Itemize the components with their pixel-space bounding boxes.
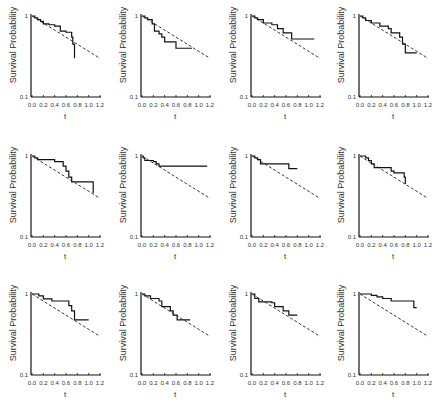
svg-text:1.2: 1.2 <box>316 102 325 108</box>
svg-text:0.1: 0.1 <box>240 372 249 378</box>
svg-text:1.2: 1.2 <box>424 380 433 386</box>
y-axis-label: Survival Probability <box>118 0 128 90</box>
svg-text:0.0: 0.0 <box>138 102 147 108</box>
svg-text:0.6: 0.6 <box>62 102 71 108</box>
svg-text:1.0: 1.0 <box>194 102 203 108</box>
survival-chart-3: 0.00.20.40.60.81.01.210.1Survival Probab… <box>220 0 330 136</box>
svg-text:0.1: 0.1 <box>130 372 139 378</box>
x-axis-label: t <box>284 252 286 261</box>
x-axis-label: t <box>284 112 286 121</box>
svg-text:1.2: 1.2 <box>206 242 215 248</box>
y-axis-label: Survival Probability <box>228 0 238 90</box>
svg-text:0.1: 0.1 <box>20 372 29 378</box>
svg-text:1.2: 1.2 <box>96 242 105 248</box>
svg-text:0.6: 0.6 <box>172 102 181 108</box>
y-axis-label: Survival Probability <box>336 0 346 90</box>
survival-chart-1: 0.00.20.40.60.81.01.210.1Survival Probab… <box>0 0 110 136</box>
svg-text:0.4: 0.4 <box>160 380 169 386</box>
svg-text:0.6: 0.6 <box>282 242 291 248</box>
svg-text:0.8: 0.8 <box>293 242 302 248</box>
svg-text:0.4: 0.4 <box>50 242 59 248</box>
y-axis-label: Survival Probability <box>336 140 346 230</box>
svg-text:0.0: 0.0 <box>356 242 365 248</box>
svg-text:0.1: 0.1 <box>348 94 357 100</box>
svg-text:0.2: 0.2 <box>367 242 376 248</box>
svg-text:1.2: 1.2 <box>316 242 325 248</box>
x-axis-label: t <box>64 112 66 121</box>
svg-text:0.0: 0.0 <box>248 380 257 386</box>
svg-text:0.2: 0.2 <box>367 380 376 386</box>
svg-text:1.2: 1.2 <box>206 102 215 108</box>
y-axis-label: Survival Probability <box>118 278 128 368</box>
survival-chart-10: 0.00.20.40.60.81.01.210.1Survival Probab… <box>110 278 220 408</box>
survival-chart-12: 0.00.20.40.60.81.01.210.1Survival Probab… <box>328 278 438 408</box>
svg-text:0.1: 0.1 <box>130 94 139 100</box>
svg-text:0.2: 0.2 <box>149 102 158 108</box>
svg-text:0.8: 0.8 <box>183 242 192 248</box>
svg-text:0.6: 0.6 <box>62 242 71 248</box>
svg-text:0.2: 0.2 <box>259 102 268 108</box>
x-axis-label: t <box>392 252 394 261</box>
svg-text:1.0: 1.0 <box>412 242 421 248</box>
survival-chart-5: 0.00.20.40.60.81.01.210.1Survival Probab… <box>0 140 110 276</box>
svg-text:1: 1 <box>245 291 249 297</box>
svg-text:0.8: 0.8 <box>183 102 192 108</box>
svg-text:1: 1 <box>25 291 29 297</box>
svg-text:0.6: 0.6 <box>62 380 71 386</box>
svg-text:0.2: 0.2 <box>39 242 48 248</box>
svg-text:0.2: 0.2 <box>39 380 48 386</box>
svg-text:0.8: 0.8 <box>73 242 82 248</box>
x-axis-label: t <box>392 390 394 399</box>
svg-text:1.2: 1.2 <box>424 102 433 108</box>
svg-text:0.1: 0.1 <box>130 234 139 240</box>
svg-text:0.0: 0.0 <box>28 102 37 108</box>
x-axis-label: t <box>392 112 394 121</box>
svg-text:1: 1 <box>135 291 139 297</box>
svg-text:0.0: 0.0 <box>138 242 147 248</box>
svg-text:1.0: 1.0 <box>304 242 313 248</box>
x-axis-label: t <box>64 252 66 261</box>
svg-text:0.0: 0.0 <box>356 380 365 386</box>
svg-text:1.2: 1.2 <box>96 102 105 108</box>
svg-text:0.1: 0.1 <box>20 94 29 100</box>
svg-text:1: 1 <box>135 13 139 19</box>
survival-chart-7: 0.00.20.40.60.81.01.210.1Survival Probab… <box>220 140 330 276</box>
svg-text:0.1: 0.1 <box>348 372 357 378</box>
svg-text:1.0: 1.0 <box>304 102 313 108</box>
svg-text:0.2: 0.2 <box>367 102 376 108</box>
svg-text:0.0: 0.0 <box>356 102 365 108</box>
svg-text:0.4: 0.4 <box>378 242 387 248</box>
svg-text:0.6: 0.6 <box>172 242 181 248</box>
svg-text:1.0: 1.0 <box>412 380 421 386</box>
x-axis-label: t <box>174 112 176 121</box>
svg-text:1: 1 <box>245 153 249 159</box>
svg-text:0.1: 0.1 <box>348 234 357 240</box>
survival-chart-4: 0.00.20.40.60.81.01.210.1Survival Probab… <box>328 0 438 136</box>
svg-text:0.8: 0.8 <box>183 380 192 386</box>
svg-text:0.4: 0.4 <box>270 102 279 108</box>
svg-text:1.0: 1.0 <box>412 102 421 108</box>
svg-text:0.8: 0.8 <box>73 102 82 108</box>
svg-text:1: 1 <box>25 13 29 19</box>
svg-text:1: 1 <box>353 153 357 159</box>
svg-text:0.1: 0.1 <box>240 94 249 100</box>
svg-text:1.0: 1.0 <box>304 380 313 386</box>
svg-text:1.0: 1.0 <box>84 380 93 386</box>
svg-text:0.4: 0.4 <box>50 102 59 108</box>
survival-chart-6: 0.00.20.40.60.81.01.210.1Survival Probab… <box>110 140 220 276</box>
svg-text:0.4: 0.4 <box>270 380 279 386</box>
svg-text:0.8: 0.8 <box>401 380 410 386</box>
y-axis-label: Survival Probability <box>228 278 238 368</box>
svg-text:1: 1 <box>353 13 357 19</box>
x-axis-label: t <box>174 390 176 399</box>
svg-text:1.2: 1.2 <box>316 380 325 386</box>
svg-text:0.8: 0.8 <box>401 102 410 108</box>
svg-text:0.0: 0.0 <box>28 242 37 248</box>
svg-text:1.0: 1.0 <box>84 242 93 248</box>
y-axis-label: Survival Probability <box>8 278 18 368</box>
svg-text:1: 1 <box>245 13 249 19</box>
svg-text:0.4: 0.4 <box>378 102 387 108</box>
svg-text:0.4: 0.4 <box>50 380 59 386</box>
svg-text:1: 1 <box>135 153 139 159</box>
svg-text:0.6: 0.6 <box>390 242 399 248</box>
